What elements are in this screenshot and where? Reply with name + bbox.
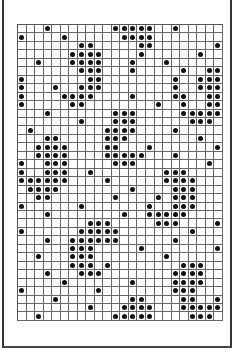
grid-cell [86, 296, 95, 304]
filled-dot-cell [146, 25, 155, 33]
filled-dot-cell [120, 304, 129, 312]
filled-dot-cell [61, 152, 70, 160]
grid-cell [197, 245, 206, 253]
grid-cell [103, 279, 112, 287]
grid-cell [112, 262, 121, 270]
grid-cell [69, 152, 78, 160]
grid-cell [137, 177, 146, 185]
grid-cell [61, 228, 70, 236]
grid-cell [61, 59, 70, 67]
grid-cell [180, 59, 189, 67]
grid-cell [172, 59, 181, 67]
grid-cell [78, 152, 87, 160]
grid-cell [18, 50, 27, 58]
grid-cell [137, 270, 146, 278]
filled-dot-cell [137, 33, 146, 41]
filled-dot-cell [44, 186, 53, 194]
grid-cell [172, 262, 181, 270]
filled-dot-cell [163, 219, 172, 227]
grid-cell [35, 236, 44, 244]
filled-dot-cell [155, 101, 164, 109]
grid-cell [86, 279, 95, 287]
grid-cell [112, 59, 121, 67]
filled-dot-cell [78, 93, 87, 101]
grid-cell [137, 236, 146, 244]
grid-cell [95, 296, 104, 304]
grid-cell [206, 262, 215, 270]
grid-cell [214, 118, 223, 126]
grid-cell [52, 203, 61, 211]
grid-cell [61, 287, 70, 295]
filled-dot-cell [163, 211, 172, 219]
grid-cell [27, 160, 36, 168]
filled-dot-cell [78, 228, 87, 236]
filled-dot-cell [95, 76, 104, 84]
grid-cell [214, 236, 223, 244]
grid-cell [180, 118, 189, 126]
grid-cell [103, 312, 112, 320]
grid-cell [155, 84, 164, 92]
filled-dot-cell [69, 253, 78, 261]
grid-cell [163, 304, 172, 312]
grid-cell [95, 118, 104, 126]
filled-dot-cell [35, 312, 44, 320]
filled-dot-cell [172, 84, 181, 92]
filled-dot-cell [172, 270, 181, 278]
grid-cell [180, 76, 189, 84]
grid-cell [27, 270, 36, 278]
grid-cell [146, 194, 155, 202]
grid-cell [206, 143, 215, 151]
filled-dot-cell [44, 110, 53, 118]
grid-cell [52, 126, 61, 134]
grid-cell [163, 126, 172, 134]
grid-cell [44, 219, 53, 227]
grid-cell [61, 270, 70, 278]
filled-dot-cell [35, 194, 44, 202]
grid-cell [206, 296, 215, 304]
grid-cell [35, 33, 44, 41]
grid-cell [155, 59, 164, 67]
grid-cell [129, 262, 138, 270]
grid-cell [137, 253, 146, 261]
filled-dot-cell [78, 270, 87, 278]
filled-dot-cell [189, 304, 198, 312]
grid-cell [18, 126, 27, 134]
grid-cell [18, 312, 27, 320]
filled-dot-cell [197, 118, 206, 126]
grid-cell [146, 287, 155, 295]
filled-dot-cell [44, 270, 53, 278]
grid-cell [163, 118, 172, 126]
filled-dot-cell [27, 177, 36, 185]
grid-cell [44, 126, 53, 134]
grid-cell [27, 42, 36, 50]
grid-cell [163, 76, 172, 84]
grid-cell [189, 211, 198, 219]
grid-cell [163, 33, 172, 41]
filled-dot-cell [163, 169, 172, 177]
filled-dot-cell [112, 152, 121, 160]
grid-cell [95, 262, 104, 270]
grid-cell [69, 287, 78, 295]
grid-cell [206, 169, 215, 177]
grid-cell [44, 50, 53, 58]
grid-cell [197, 152, 206, 160]
filled-dot-cell [155, 211, 164, 219]
filled-dot-cell [95, 219, 104, 227]
grid-cell [163, 101, 172, 109]
grid-cell [78, 186, 87, 194]
grid-cell [180, 236, 189, 244]
filled-dot-cell [78, 236, 87, 244]
grid-cell [172, 143, 181, 151]
grid-cell [103, 50, 112, 58]
grid-cell [172, 253, 181, 261]
grid-cell [95, 143, 104, 151]
grid-cell [163, 25, 172, 33]
grid-cell [163, 135, 172, 143]
filled-dot-cell [197, 262, 206, 270]
grid-cell [18, 25, 27, 33]
grid-cell [112, 287, 121, 295]
grid-cell [78, 312, 87, 320]
grid-cell [189, 169, 198, 177]
grid-cell [155, 67, 164, 75]
grid-cell [180, 50, 189, 58]
